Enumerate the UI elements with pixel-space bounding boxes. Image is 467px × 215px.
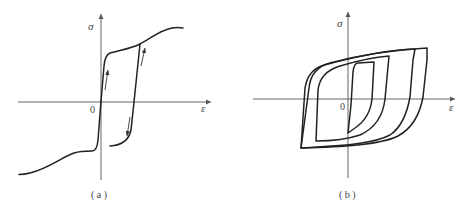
loading-curve-a [101,28,183,101]
hysteresis-loop-middle [316,56,389,141]
origin-label-b: 0 [340,101,345,112]
unloading-curve-a [110,44,140,146]
lower-curve-a [19,101,101,175]
caption-a: ( a ) [91,189,107,201]
caption-b: ( b ) [339,189,356,201]
figure-canvas: σ ε 0 ( a ) σ ε 0 ( b ) [0,0,467,215]
arrow-up-icon [105,70,108,90]
epsilon-label-a: ε [201,102,206,114]
epsilon-label-b: ε [449,101,454,113]
panel-b: σ ε 0 ( b ) [253,12,455,201]
origin-label-a: 0 [90,104,95,115]
sigma-label-a: σ [88,20,94,32]
sigma-label-b: σ [337,17,343,29]
arrow-up-icon [141,48,145,66]
panel-a: σ ε 0 ( a ) [18,14,211,201]
hysteresis-loop-inner [348,62,374,133]
